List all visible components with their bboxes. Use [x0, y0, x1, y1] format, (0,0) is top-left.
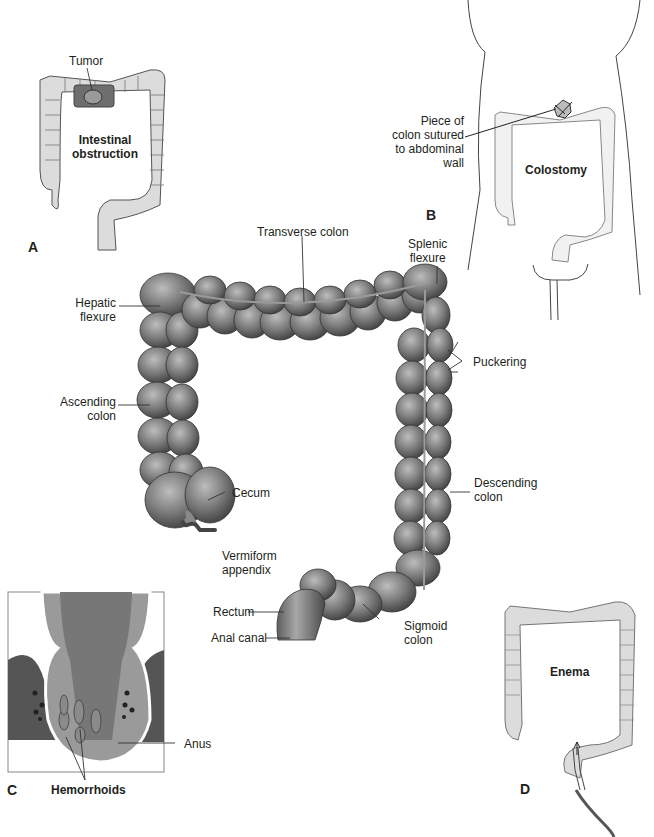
label-sigmoid-colon: Sigmoid colon	[404, 619, 447, 647]
label-tumor: Tumor	[69, 54, 103, 68]
label-puckering: Puckering	[473, 355, 526, 369]
tumor-icon	[84, 90, 102, 104]
label-transverse-colon: Transverse colon	[257, 225, 349, 239]
label-stoma: Piece of colon sutured to abdominal wall	[372, 114, 464, 170]
label-rectum: Rectum	[213, 605, 254, 619]
panel-b-title: Colostomy	[525, 163, 587, 177]
panel-d-letter: D	[520, 781, 530, 797]
panel-a-title: Intestinal obstruction	[72, 133, 138, 161]
label-anal-canal: Anal canal	[211, 631, 267, 645]
panel-c-hemorrhoids-illustration	[8, 592, 175, 780]
label-hepatic-flexure: Hepatic flexure	[60, 296, 116, 324]
panel-d-enema-illustration	[505, 602, 635, 837]
label-ascending-colon: Ascending colon	[42, 395, 116, 423]
main-colon-illustration	[137, 264, 453, 640]
panel-a-letter: A	[28, 239, 38, 255]
label-cecum: Cecum	[232, 486, 270, 500]
label-anus: Anus	[184, 737, 211, 751]
label-descending-colon: Descending colon	[474, 476, 537, 504]
panel-b-letter: B	[426, 207, 436, 223]
panel-c-letter: C	[7, 782, 17, 798]
label-splenic-flexure: Splenic flexure	[408, 237, 447, 265]
label-vermiform-appendix: Vermiform appendix	[222, 549, 277, 577]
panel-c-title: Hemorrhoids	[51, 783, 126, 797]
panel-d-title: Enema	[550, 665, 589, 679]
panel-b-torso-illustration	[465, 0, 640, 320]
